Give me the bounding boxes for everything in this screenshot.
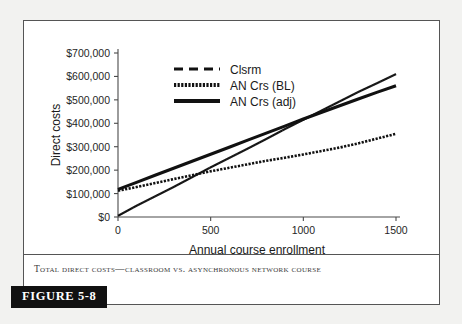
x-axis-title: Annual course enrollment <box>189 243 326 254</box>
x-tick-label: 1500 <box>384 224 408 236</box>
figure-caption-strip: Total Direct Costs—Classroom vs. Asynchr… <box>24 254 439 283</box>
x-tick-label: 0 <box>115 224 121 236</box>
y-tick-label: $700,000 <box>66 47 110 59</box>
legend-label-1: AN Crs (BL) <box>230 79 295 93</box>
legend-item-1: AN Crs (BL) <box>174 79 295 93</box>
figure-caption: Total Direct Costs—Classroom vs. Asynchr… <box>24 264 321 274</box>
figure-number-banner: FIGURE 5-8 <box>11 286 107 308</box>
figure-page: $0$100,000$200,000$300,000$400,000$500,0… <box>0 0 462 324</box>
y-tick-label: $300,000 <box>66 141 110 153</box>
y-axis-title: Direct costs <box>49 104 63 167</box>
figure-panel: $0$100,000$200,000$300,000$400,000$500,0… <box>23 20 440 305</box>
legend-item-2: AN Crs (adj) <box>174 95 296 109</box>
series-line-1 <box>118 134 396 191</box>
chart-area: $0$100,000$200,000$300,000$400,000$500,0… <box>24 21 441 254</box>
y-tick-label: $400,000 <box>66 117 110 129</box>
legend-label-2: AN Crs (adj) <box>230 95 296 109</box>
line-chart: $0$100,000$200,000$300,000$400,000$500,0… <box>24 21 441 254</box>
y-tick-label: $200,000 <box>66 164 110 176</box>
legend-item-0: Clsrm <box>174 63 261 77</box>
legend-label-0: Clsrm <box>230 63 261 77</box>
y-tick-label: $0 <box>98 211 110 223</box>
x-tick-label: 500 <box>202 224 220 236</box>
x-tick-label: 1000 <box>292 224 316 236</box>
y-tick-label: $500,000 <box>66 94 110 106</box>
y-tick-label: $100,000 <box>66 188 110 200</box>
y-tick-label: $600,000 <box>66 70 110 82</box>
